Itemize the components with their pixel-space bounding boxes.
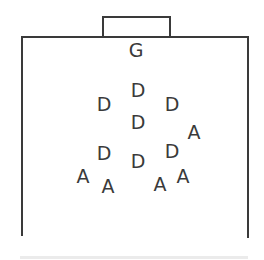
field-left-line	[21, 36, 23, 236]
goal-box	[102, 16, 171, 38]
defender-marker: D	[94, 144, 114, 163]
defender-marker: D	[162, 95, 182, 114]
attacker-marker: A	[98, 177, 118, 196]
defender-marker: D	[128, 152, 148, 171]
attacker-marker: A	[173, 167, 193, 186]
bottom-divider	[20, 256, 248, 259]
defender-marker: D	[128, 113, 148, 132]
defender-marker: D	[162, 142, 182, 161]
attacker-marker: A	[73, 167, 93, 186]
attacker-marker: A	[184, 123, 204, 142]
defender-marker: D	[94, 95, 114, 114]
defender-marker: D	[128, 81, 148, 100]
goalkeeper-marker: G	[126, 41, 146, 60]
attacker-marker: A	[150, 175, 170, 194]
field-right-line	[247, 37, 249, 238]
